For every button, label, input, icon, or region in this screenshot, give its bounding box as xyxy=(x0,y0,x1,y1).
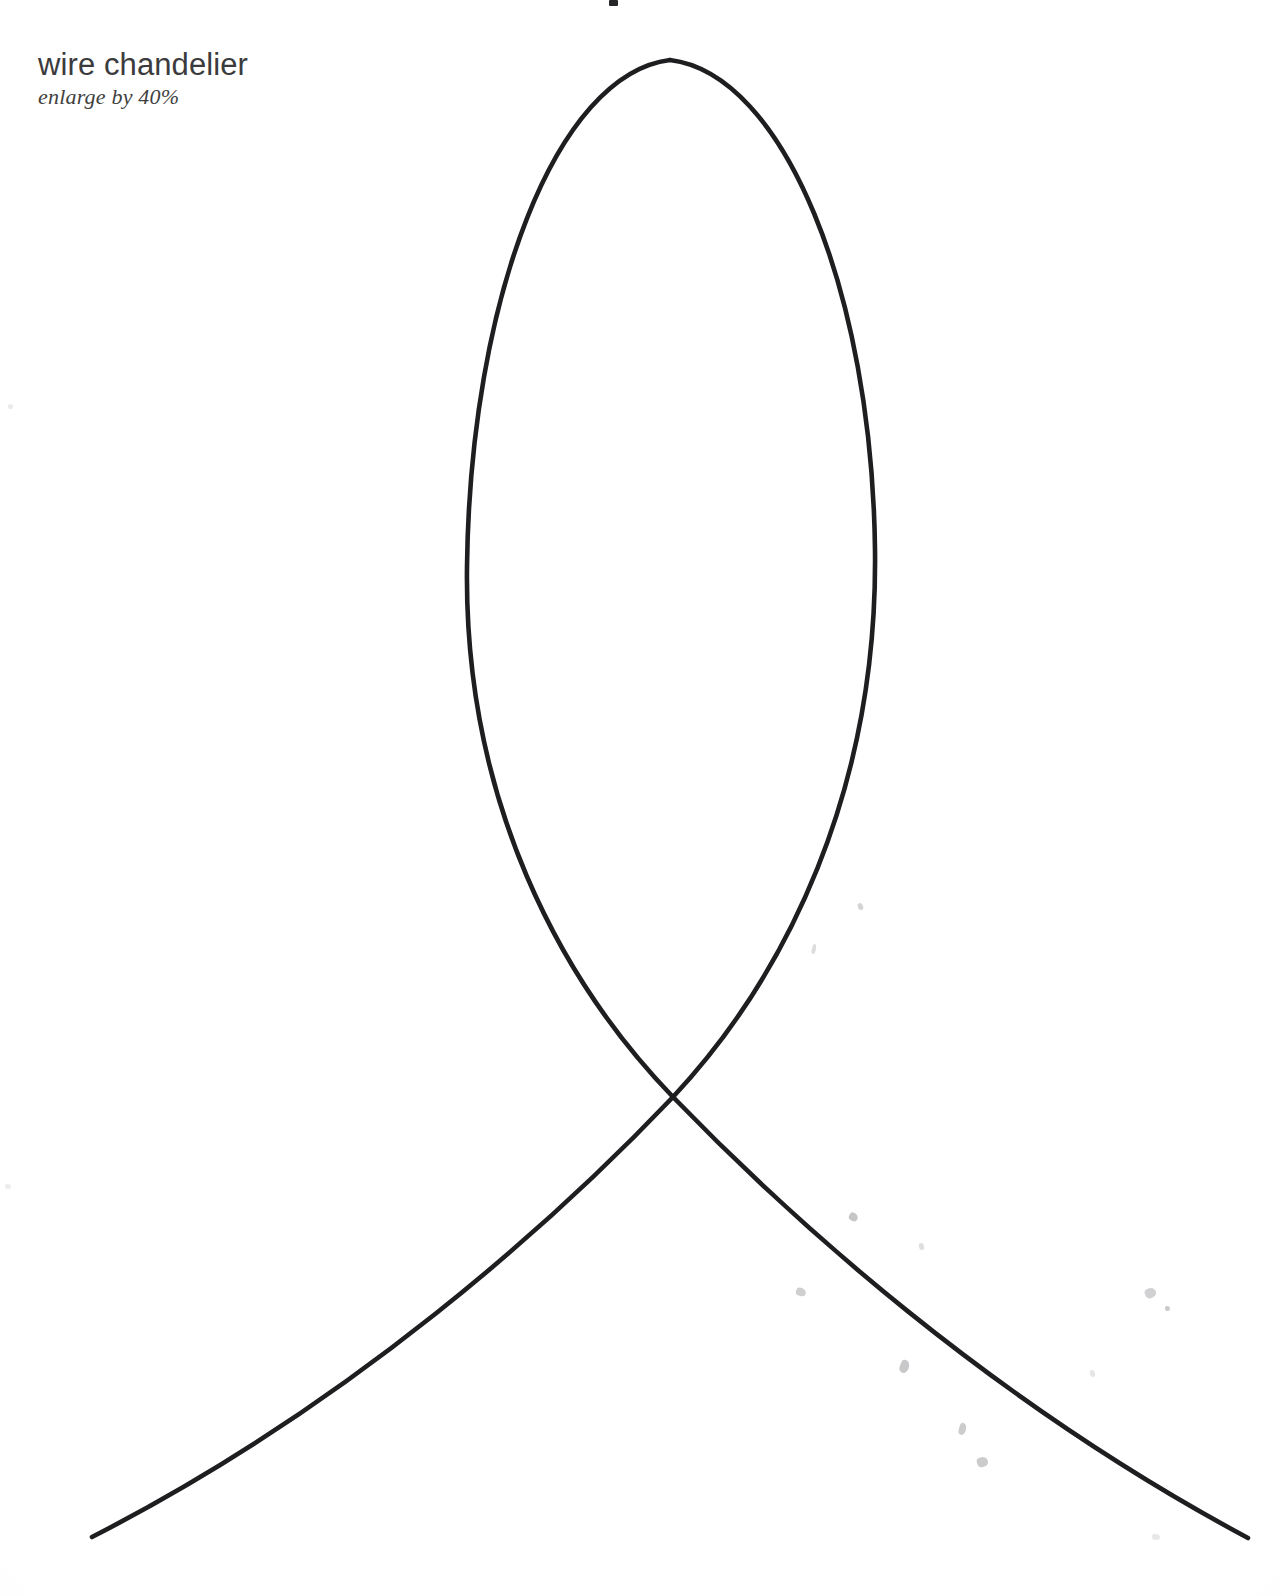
caption-block: wire chandelier enlarge by 40% xyxy=(38,48,458,110)
template-curve-left-loop-to-right-tail xyxy=(467,60,1248,1538)
scanned-template-page: wire chandelier enlarge by 40% xyxy=(0,0,1282,1596)
template-curve-right-loop-to-left-tail xyxy=(92,60,875,1537)
wire-chandelier-template-drawing xyxy=(0,0,1282,1596)
scaling-instruction: enlarge by 40% xyxy=(38,84,458,110)
project-title: wire chandelier xyxy=(38,48,458,82)
